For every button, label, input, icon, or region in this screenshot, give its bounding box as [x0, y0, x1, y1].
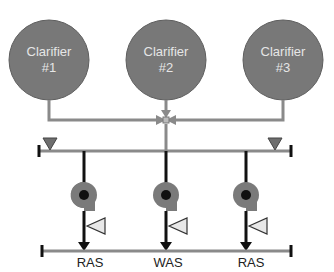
process-flow-diagram: Clarifier #1 Clarifier #2 Clarifier #3 — [0, 0, 334, 272]
check-valve-icon — [169, 218, 187, 234]
clarifier-3-number: #3 — [276, 60, 290, 75]
clarifier-2-name: Clarifier — [144, 44, 189, 59]
water-level-icon-left — [43, 138, 57, 150]
junction-node — [163, 117, 169, 123]
pipe-clarifier-1 — [49, 100, 158, 120]
outlet-label-1: RAS — [77, 255, 104, 270]
pump-train-1[interactable] — [71, 151, 105, 251]
collection-pipes — [49, 100, 283, 150]
clarifier-1-name: Clarifier — [27, 44, 72, 59]
clarifier-1[interactable]: Clarifier #1 — [9, 20, 89, 100]
clarifier-1-number: #1 — [42, 60, 56, 75]
clarifier-2[interactable]: Clarifier #2 — [126, 20, 206, 100]
clarifier-3[interactable]: Clarifier #3 — [243, 20, 323, 100]
water-level-icon-right — [268, 138, 282, 150]
check-valve-icon — [249, 218, 267, 234]
pump-train-2[interactable] — [153, 151, 187, 251]
clarifier-3-name: Clarifier — [261, 44, 306, 59]
pipe-clarifier-3 — [174, 100, 283, 120]
junction — [156, 110, 176, 125]
check-valve-icon — [87, 218, 105, 234]
outlet-label-2: WAS — [153, 255, 182, 270]
outlet-label-3: RAS — [238, 255, 265, 270]
pump-train-3[interactable] — [233, 151, 267, 251]
clarifier-2-number: #2 — [159, 60, 173, 75]
